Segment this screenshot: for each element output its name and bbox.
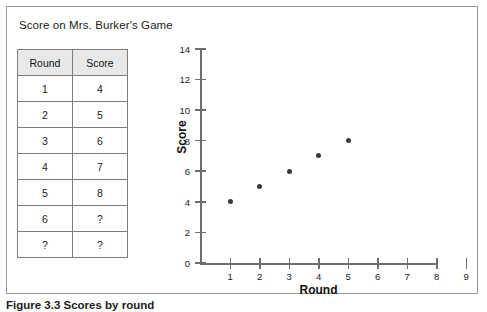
y-axis-tick [195,232,206,234]
data-point [316,153,321,158]
y-axis-tick [195,262,206,264]
x-axis-tick [318,258,320,269]
figure-panel: Score on Mrs. Burker's Game Round Score … [6,6,478,294]
x-axis-tick [259,258,261,269]
y-axis-tick-label: 6 [166,166,190,177]
scatter-plot: 02468101214 123456789 Score Round [7,7,479,295]
y-axis-tick [195,109,206,111]
x-axis-tick-label: 2 [250,271,270,282]
y-axis-tick-label: 4 [166,196,190,207]
x-axis-tick [289,258,291,269]
x-axis-tick-label: 4 [309,271,329,282]
x-axis-tick [407,258,409,269]
y-axis-tick-label: 0 [166,258,190,269]
data-point [287,169,292,174]
x-axis-tick-label: 7 [397,271,417,282]
y-axis-title: Score [175,107,189,167]
data-point [257,184,262,189]
y-axis-tick-label: 2 [166,227,190,238]
x-axis-tick [377,258,379,269]
x-axis-tick [436,258,438,269]
x-axis-tick [230,258,232,269]
x-axis-tick-label: 6 [368,271,388,282]
y-axis-tick-label: 14 [166,43,190,54]
x-axis-tick-label: 1 [220,271,240,282]
x-axis-tick-label: 8 [427,271,447,282]
y-axis-tick [195,170,206,172]
x-axis-tick [348,258,350,269]
y-axis-tick [195,140,206,142]
x-axis-title: Round [200,283,437,297]
y-axis-tick-label: 12 [166,74,190,85]
x-axis-tick [466,258,468,269]
data-point [346,138,351,143]
x-axis-tick-label: 5 [338,271,358,282]
x-axis-tick-label: 9 [456,271,476,282]
y-axis-tick [195,48,206,50]
figure-caption: Figure 3.3 Scores by round [6,299,154,311]
y-axis-tick [195,201,206,203]
y-axis-tick [195,79,206,81]
data-point [228,199,233,204]
x-axis-tick-label: 3 [279,271,299,282]
